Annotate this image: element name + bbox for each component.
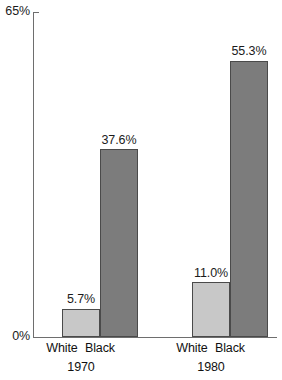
y-axis-min-label: 0%	[0, 329, 30, 343]
group-label-1980: 1980	[166, 360, 256, 374]
bar-group-1970: 5.7% 37.6%	[62, 12, 140, 337]
bar-1980-white	[192, 282, 230, 337]
group-label-1970: 1970	[36, 360, 126, 374]
category-label-1970-black: Black	[72, 341, 128, 355]
bar-1970-black	[100, 149, 138, 337]
plot-area: 5.7% 37.6% 11.0% 55.3%	[33, 12, 277, 337]
bar-value-1970-black: 37.6%	[91, 133, 147, 147]
bar-value-1980-black: 55.3%	[221, 44, 277, 58]
bar-1970-white	[62, 309, 100, 338]
bar-group-1980: 11.0% 55.3%	[192, 12, 270, 337]
category-label-1980-black: Black	[202, 341, 258, 355]
bar-1980-black	[230, 61, 268, 338]
bar-chart: 65% 0% 5.7% 37.6% 11.0% 55.3% White Blac…	[0, 0, 282, 380]
y-axis-max-label: 65%	[0, 4, 30, 18]
